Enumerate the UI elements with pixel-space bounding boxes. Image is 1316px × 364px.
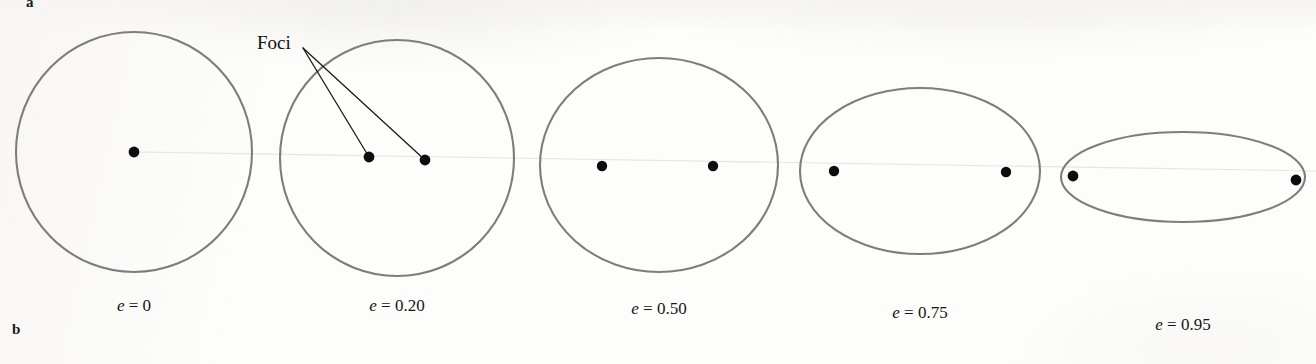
- ellipse-outline-0.95: [1061, 132, 1305, 222]
- eccentricity-symbol: e: [369, 296, 377, 315]
- eccentricity-label-0: e = 0: [117, 297, 151, 314]
- panel-letter-b: b: [12, 322, 20, 337]
- foci-leader-line-1: [303, 48, 425, 160]
- focus-dot-4-1: [1291, 175, 1302, 186]
- figure-root: a b Foci e = 0e = 0.20e = 0.50e = 0.75e …: [0, 0, 1316, 364]
- eccentricity-label-0.95: e = 0.95: [1155, 316, 1210, 333]
- eccentricity-label-0.2: e = 0.20: [369, 297, 424, 314]
- foci-dots-group: [129, 147, 1302, 186]
- eccentricity-equals: =: [124, 296, 142, 315]
- focus-dot-1-0: [364, 152, 375, 163]
- foci-leader-line-0: [303, 48, 369, 157]
- ellipse-outlines-group: [16, 32, 1305, 276]
- eccentricity-value: 0.20: [395, 296, 425, 315]
- eccentricity-equals: =: [1163, 315, 1181, 334]
- eccentricity-equals: =: [900, 303, 918, 322]
- eccentricity-label-0.75: e = 0.75: [892, 304, 947, 321]
- focus-dot-3-0: [829, 166, 839, 176]
- eccentricity-value: 0.50: [657, 299, 687, 318]
- focus-dot-2-0: [597, 161, 607, 171]
- focus-dot-1-1: [420, 155, 431, 166]
- ellipse-outline-0.5: [540, 58, 778, 272]
- focus-dot-3-1: [1001, 167, 1011, 177]
- foci-annotation-label: Foci: [257, 33, 291, 52]
- center-dot-0-0: [129, 147, 140, 158]
- eccentricity-symbol: e: [631, 299, 639, 318]
- eccentricity-value: 0.95: [1181, 315, 1211, 334]
- foci-leader-lines-group: [303, 48, 425, 160]
- eccentricity-value: 0.75: [918, 303, 948, 322]
- eccentricity-symbol: e: [117, 296, 125, 315]
- eccentricity-symbol: e: [1155, 315, 1163, 334]
- eccentricity-symbol: e: [892, 303, 900, 322]
- panel-letter-a: a: [26, 0, 34, 10]
- eccentricity-equals: =: [377, 296, 395, 315]
- eccentricity-value: 0: [143, 296, 152, 315]
- scan-drift-line: [140, 152, 1316, 171]
- focus-dot-4-0: [1068, 171, 1079, 182]
- eccentricity-label-0.5: e = 0.50: [631, 300, 686, 317]
- scan-artifact-line: [140, 152, 1316, 171]
- focus-dot-2-1: [708, 161, 718, 171]
- eccentricity-equals: =: [639, 299, 657, 318]
